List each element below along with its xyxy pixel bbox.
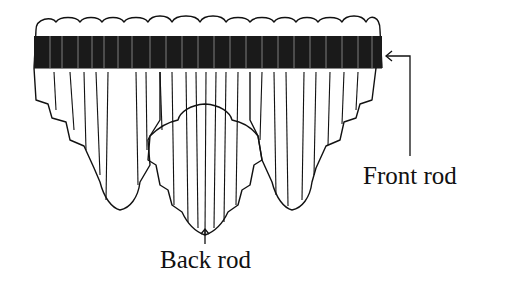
pleat-lines — [54, 72, 358, 235]
front-rod-label: Front rod — [363, 163, 457, 188]
back-rod-pointer — [201, 229, 209, 244]
back-rod-label: Back rod — [160, 247, 251, 272]
valance-diagram: Front rod Back rod — [0, 0, 514, 281]
front-rod-pointer — [386, 51, 410, 156]
valance-illustration — [0, 0, 514, 281]
heading-top — [36, 16, 380, 30]
gathered-band — [34, 36, 382, 68]
